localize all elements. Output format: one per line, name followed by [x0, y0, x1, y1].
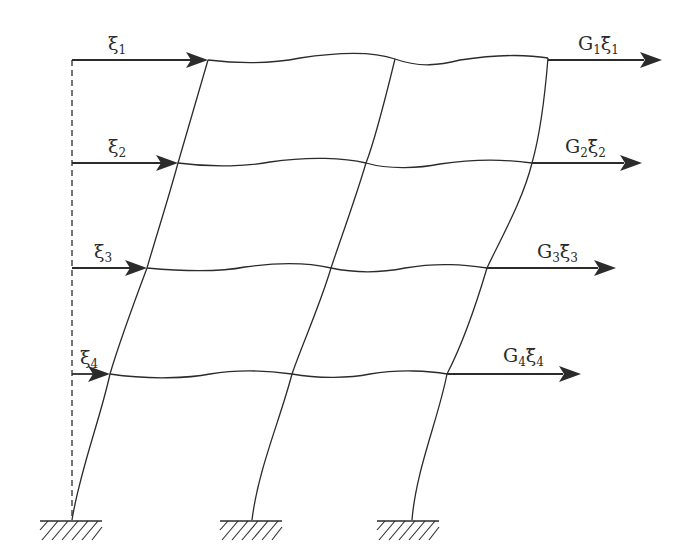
displacement-arrow-1 [72, 52, 208, 68]
inertial-force-label-1: G1ξ̈1 [578, 32, 619, 57]
beam-storey-4 [110, 371, 447, 378]
displacement-label-2: ξ2 [108, 135, 126, 160]
fixed-support-middle [220, 521, 282, 540]
displacement-label-3: ξ3 [94, 240, 112, 265]
fixed-support-left [40, 521, 102, 540]
beam-storey-1 [208, 54, 548, 65]
beam-storey-3 [147, 264, 487, 272]
displacement-label-4: ξ4 [80, 346, 98, 371]
inertial-force-label-3: G3ξ̈3 [537, 240, 578, 265]
frame-diagram: ξ1 ξ2 ξ3 ξ4 G1ξ̈1 G2ξ̈2 G3ξ̈3 G4ξ̈4 [0, 0, 691, 558]
column-middle [252, 59, 395, 520]
inertial-force-label-4: G4ξ̈4 [503, 344, 544, 369]
inertial-force-arrow-4 [447, 366, 581, 382]
beam-storey-2 [178, 158, 532, 167]
displacement-label-1: ξ1 [108, 32, 126, 57]
inertial-force-arrow-1 [548, 52, 662, 68]
inertial-force-label-2: G2ξ̈2 [565, 135, 606, 160]
column-right [412, 58, 548, 520]
fixed-support-right [377, 521, 439, 540]
column-left [72, 60, 208, 520]
